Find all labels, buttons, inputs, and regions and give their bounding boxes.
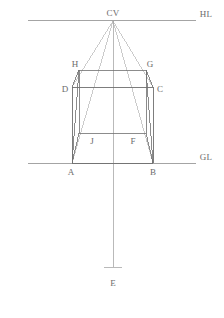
vanishing-ray-cv-c: [113, 21, 153, 87]
front-face-group: [72, 87, 153, 163]
label-j: J: [90, 137, 94, 146]
receding-edges-group: [72, 70, 153, 163]
label-f: F: [130, 137, 135, 146]
label-d: D: [62, 85, 69, 94]
label-e: E: [110, 279, 116, 288]
label-cv: CV: [107, 9, 120, 18]
label-c: C: [157, 85, 163, 94]
perspective-diagram: CVHLGLHGDCJFABE: [0, 0, 224, 318]
reference-lines-group: [28, 20, 196, 163]
central-axis-group: [104, 21, 122, 267]
label-hl: HL: [200, 10, 212, 19]
diagram-canvas: [0, 0, 224, 318]
label-b: B: [150, 168, 156, 177]
label-g: G: [147, 60, 154, 69]
label-h: H: [72, 60, 79, 69]
label-a: A: [68, 168, 75, 177]
label-gl: GL: [200, 153, 212, 162]
construction-lines-group: [72, 21, 153, 163]
